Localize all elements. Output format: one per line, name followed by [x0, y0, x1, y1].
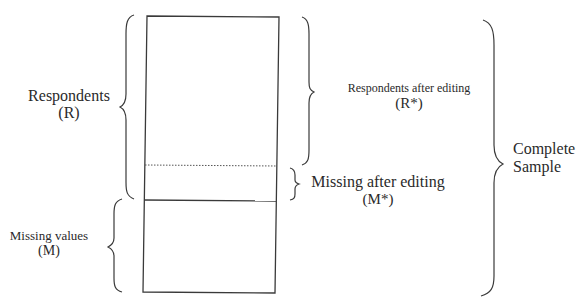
respondents-label: Respondents (R)	[20, 88, 118, 121]
respondents-brace-icon	[120, 15, 134, 199]
respondents-after-editing-label-text: Respondents after editing	[336, 82, 482, 94]
respondents-after-editing-symbol: (R*)	[336, 96, 482, 111]
missing-values-label: Missing values (M)	[4, 229, 94, 258]
sample-partition-diagram: Respondents (R) Missing values (M) Respo…	[0, 0, 582, 301]
complete-sample-brace-icon	[481, 20, 503, 296]
dotted-divider-line	[145, 165, 277, 166]
complete-sample-label-line2: Sample	[513, 159, 581, 175]
complete-sample-label: Complete Sample	[513, 141, 581, 175]
respondents-label-text: Respondents	[20, 88, 118, 104]
complete-sample-label-line1: Complete	[513, 141, 581, 157]
missing-values-symbol: (M)	[4, 244, 94, 258]
sample-rectangle	[143, 16, 279, 293]
missing-values-brace-icon	[108, 199, 122, 292]
missing-after-editing-brace-icon	[290, 168, 299, 200]
missing-after-editing-label-text: Missing after editing	[306, 174, 450, 190]
missing-after-editing-label: Missing after editing (M*)	[306, 174, 450, 207]
missing-values-label-text: Missing values	[4, 229, 94, 242]
respondents-after-editing-brace-icon	[302, 17, 314, 165]
missing-after-editing-symbol: (M*)	[306, 192, 450, 207]
respondents-symbol: (R)	[20, 105, 118, 121]
solid-divider-line	[144, 200, 276, 201]
respondents-after-editing-label: Respondents after editing (R*)	[336, 82, 482, 111]
